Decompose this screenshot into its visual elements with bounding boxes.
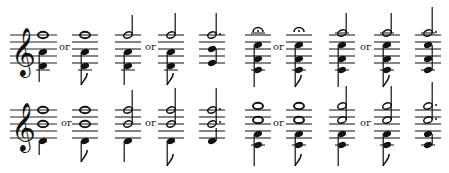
treble-clef-staff-2: 𝄞: [10, 102, 57, 153]
or-label: or: [145, 41, 156, 52]
row-2: 𝄞 or or: [10, 82, 441, 166]
example-3: [115, 15, 141, 85]
example-5: [199, 13, 225, 67]
or-label: or: [360, 41, 371, 52]
example-10: [415, 7, 441, 74]
treble-clef-icon: 𝄞: [11, 102, 36, 153]
example-12: [72, 107, 98, 162]
example-19: [374, 86, 400, 166]
example-20: [415, 82, 441, 149]
music-notation-figure: 𝄞 or o: [0, 0, 449, 173]
row-1: 𝄞 or o: [10, 7, 441, 87]
example-9: [374, 13, 400, 87]
example-13: [115, 90, 141, 162]
example-8: [329, 13, 355, 87]
or-label: or: [61, 117, 72, 128]
example-18: [329, 86, 355, 166]
example-17: [286, 103, 312, 166]
example-16: [245, 103, 271, 166]
treble-clef-icon: 𝄞: [11, 27, 36, 78]
or-label: or: [273, 41, 284, 52]
example-14: [158, 88, 184, 166]
example-2: [72, 32, 98, 85]
example-1: [36, 32, 50, 82]
or-label: or: [273, 117, 284, 128]
example-15: [199, 88, 225, 145]
or-label: or: [59, 41, 70, 52]
example-4: [158, 13, 184, 85]
example-7: [286, 28, 312, 88]
example-6: [245, 28, 271, 88]
or-label: or: [360, 117, 371, 128]
or-label: or: [145, 117, 156, 128]
